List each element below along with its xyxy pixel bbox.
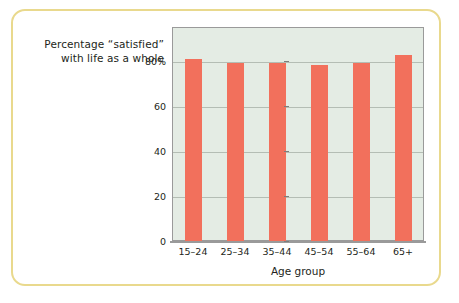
bar-55–64 [353, 63, 370, 241]
y-tick-label-80: 80% [120, 55, 166, 66]
y-axis-tick-labels: 020406080% [118, 0, 166, 303]
x-tick-label-25–34: 25–34 [221, 246, 250, 257]
y-tick-mark-0 [284, 241, 289, 242]
y-tick-mark-80 [284, 61, 289, 62]
y-tick-label-40: 40 [120, 145, 166, 156]
bar-65+ [395, 55, 412, 241]
y-tick-mark-20 [284, 196, 289, 197]
bar-45–54 [311, 65, 328, 241]
y-tick-label-20: 20 [120, 190, 166, 201]
x-axis-line [170, 241, 426, 243]
bars-layer [172, 27, 424, 241]
x-tick-label-15–24: 15–24 [179, 246, 208, 257]
figure: Percentage “satisfied” with life as a wh… [0, 0, 459, 303]
x-tick-label-65+: 65+ [393, 246, 413, 257]
x-axis-tick-labels: 15–2425–3435–4445–5455–6465+ [172, 246, 424, 262]
x-tick-label-45–54: 45–54 [305, 246, 334, 257]
bar-15–24 [185, 59, 202, 241]
x-axis-title: Age group [172, 265, 424, 277]
bar-25–34 [227, 63, 244, 241]
y-tick-label-60: 60 [120, 100, 166, 111]
x-tick-label-35–44: 35–44 [263, 246, 292, 257]
bar-35–44 [269, 63, 286, 241]
y-tick-mark-60 [284, 106, 289, 107]
y-tick-label-0: 0 [120, 236, 166, 247]
y-tick-mark-40 [284, 151, 289, 152]
x-tick-label-55–64: 55–64 [347, 246, 376, 257]
